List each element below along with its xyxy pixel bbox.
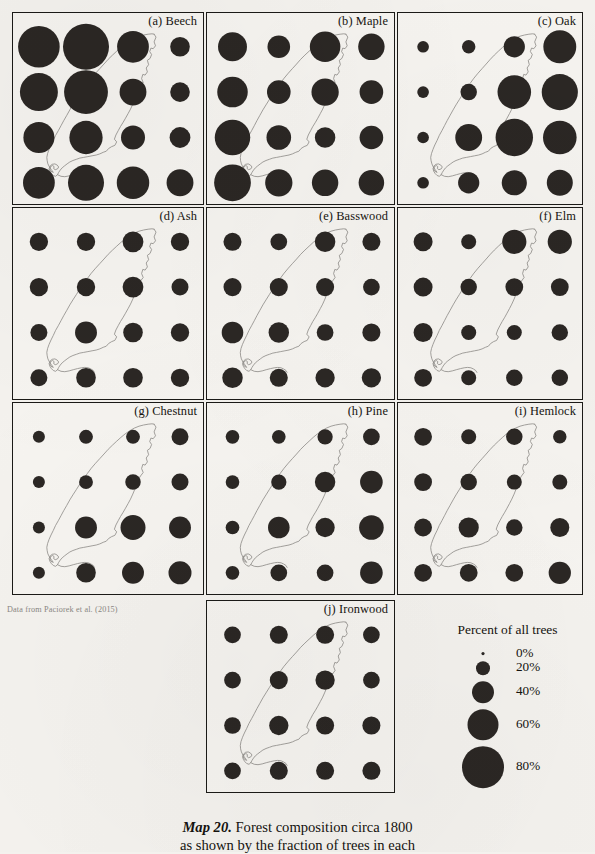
panel-plot bbox=[13, 208, 204, 400]
panel-plot bbox=[398, 208, 583, 400]
bubble-marker bbox=[169, 561, 192, 584]
bubble-marker bbox=[460, 474, 476, 490]
map-panel-hemlock[interactable]: (i) Hemlock bbox=[397, 402, 583, 595]
bubble-marker bbox=[23, 167, 55, 199]
bubble-marker bbox=[417, 132, 429, 144]
bubble-marker bbox=[172, 279, 189, 296]
bubble-marker bbox=[223, 233, 241, 251]
caption-map-number: Map 20. bbox=[182, 819, 231, 835]
bubble-marker bbox=[268, 517, 290, 539]
panel-label: (j) Ironwood bbox=[324, 602, 388, 617]
bubble-marker bbox=[507, 475, 522, 490]
bubble-marker bbox=[64, 70, 108, 114]
bubble-marker bbox=[265, 169, 292, 196]
panel-plot bbox=[13, 13, 204, 205]
bubble-marker bbox=[315, 232, 335, 252]
bubble-marker bbox=[224, 672, 241, 689]
bubble-marker bbox=[458, 172, 479, 193]
bubble-marker bbox=[226, 430, 240, 444]
bubble-marker bbox=[505, 564, 523, 582]
bubble-marker bbox=[363, 626, 380, 643]
bubble-marker bbox=[33, 521, 45, 533]
panel-label: (g) Chestnut bbox=[134, 404, 197, 419]
panel-plot bbox=[207, 601, 395, 793]
bubble-marker bbox=[462, 40, 475, 53]
map-panel-beech[interactable]: (a) Beech bbox=[12, 12, 204, 205]
bubble-marker bbox=[69, 121, 102, 154]
bubble-marker bbox=[123, 277, 144, 298]
bubble-marker bbox=[460, 564, 478, 582]
bubble-marker bbox=[18, 26, 60, 68]
bubble-marker bbox=[505, 278, 523, 296]
bubble-marker bbox=[77, 233, 95, 251]
bubble-marker bbox=[362, 762, 380, 780]
map-panel-maple[interactable]: (b) Maple bbox=[206, 12, 395, 205]
bubble-marker bbox=[316, 716, 334, 734]
bubble-marker bbox=[461, 234, 476, 249]
bubble-marker bbox=[222, 322, 244, 344]
bubble-marker bbox=[76, 368, 96, 388]
bubble-marker bbox=[363, 672, 380, 689]
bubble-marker bbox=[543, 30, 576, 63]
bubble-marker bbox=[310, 32, 341, 63]
figure-caption: Map 20. Forest composition circa 1800 as… bbox=[0, 818, 595, 854]
bubble-marker bbox=[358, 34, 384, 60]
caption-title: Forest composition circa 1800 bbox=[232, 819, 413, 835]
bubble-marker bbox=[502, 230, 526, 254]
panel-plot bbox=[398, 403, 583, 595]
bubble-marker bbox=[360, 80, 384, 104]
bubble-marker bbox=[33, 431, 45, 443]
panel-label: (h) Pine bbox=[348, 404, 388, 419]
bubble-marker bbox=[170, 127, 191, 148]
bubble-marker bbox=[120, 79, 147, 106]
bubble-marker bbox=[315, 518, 334, 537]
bubble-marker bbox=[270, 369, 288, 387]
bubble-marker bbox=[506, 429, 522, 445]
bubble-marker bbox=[504, 36, 525, 57]
map-panel-ash[interactable]: (d) Ash bbox=[12, 207, 204, 400]
bubble-marker bbox=[121, 125, 145, 149]
bubble-marker bbox=[461, 429, 476, 444]
bubble-marker bbox=[171, 233, 189, 251]
bubble-marker bbox=[414, 564, 432, 582]
bubble-marker bbox=[460, 84, 476, 100]
map-panel-basswood[interactable]: (e) Basswood bbox=[206, 207, 395, 400]
bubble-marker bbox=[363, 428, 380, 445]
bubble-marker bbox=[506, 519, 522, 535]
bubble-marker bbox=[359, 515, 384, 540]
bubble-marker bbox=[77, 278, 95, 296]
bubble-marker bbox=[30, 278, 48, 296]
legend-bubble bbox=[472, 681, 494, 703]
map-panel-elm[interactable]: (f) Elm bbox=[397, 207, 583, 400]
legend-bubble bbox=[468, 709, 499, 740]
bubble-marker bbox=[414, 369, 432, 387]
bubble-marker bbox=[271, 474, 286, 489]
map-panel-pine[interactable]: (h) Pine bbox=[206, 402, 395, 595]
bubble-marker bbox=[547, 170, 573, 196]
bubble-marker bbox=[171, 369, 189, 387]
bubble-marker bbox=[30, 233, 48, 251]
bubble-marker bbox=[496, 119, 533, 156]
map-panel-ironwood[interactable]: (j) Ironwood bbox=[206, 600, 395, 793]
bubble-marker bbox=[461, 325, 476, 340]
region-outline bbox=[431, 424, 537, 567]
map-panel-oak[interactable]: (c) Oak bbox=[397, 12, 583, 205]
bubble-marker bbox=[79, 475, 93, 489]
bubble-marker bbox=[226, 566, 240, 580]
legend-bubbles bbox=[420, 640, 595, 840]
bubble-marker bbox=[543, 121, 577, 155]
bubble-marker bbox=[63, 24, 109, 70]
bubble-marker bbox=[315, 670, 334, 689]
bubble-marker bbox=[269, 716, 288, 735]
map-panel-chestnut[interactable]: (g) Chestnut bbox=[12, 402, 204, 595]
bubble-marker bbox=[122, 562, 144, 584]
bubble-marker bbox=[167, 169, 194, 196]
region-outline bbox=[240, 229, 347, 371]
bubble-marker bbox=[542, 74, 578, 110]
bubble-marker bbox=[79, 430, 93, 444]
bubble-marker bbox=[121, 515, 146, 540]
panel-label: (b) Maple bbox=[338, 14, 388, 29]
bubble-marker bbox=[551, 278, 569, 296]
bubble-marker bbox=[68, 165, 104, 201]
bubble-marker bbox=[126, 430, 140, 444]
